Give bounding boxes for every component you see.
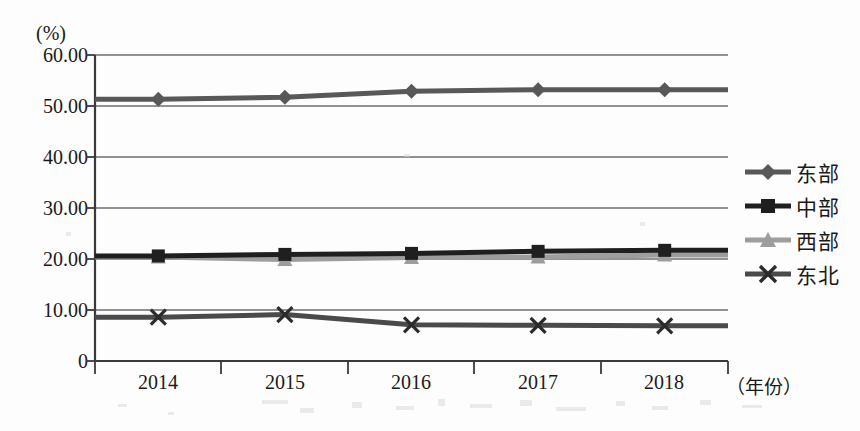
plot-area	[0, 0, 860, 431]
legend-item-west[interactable]: 西部	[744, 223, 860, 257]
legend-item-northeast[interactable]: 东北	[744, 257, 860, 291]
legend-item-central[interactable]: 中部	[744, 189, 860, 223]
x-tick-label-2017: 2017	[478, 371, 598, 394]
chart-legend: 东部 中部 西部	[744, 155, 860, 291]
x-tick-label-2018: 2018	[604, 371, 724, 394]
x-tick-label-2015: 2015	[225, 371, 345, 394]
legend-label-central: 中部	[792, 191, 839, 221]
x-tick-label-2016: 2016	[351, 371, 471, 394]
legend-label-northeast: 东北	[792, 259, 839, 289]
square-marker-icon	[744, 195, 792, 217]
y-axis-ticks	[86, 55, 95, 361]
x-axis-title: （年份）	[726, 372, 802, 399]
series-东部	[95, 82, 728, 107]
legend-label-east: 东部	[792, 157, 839, 187]
x-tick-label-2014: 2014	[98, 371, 218, 394]
chart-container: (%) 60.00 50.00 40.00 30.00 20.00 10.00 …	[0, 0, 860, 431]
legend-label-west: 西部	[792, 225, 839, 255]
triangle-marker-icon	[744, 229, 792, 251]
diamond-marker-icon	[744, 161, 792, 183]
legend-item-east[interactable]: 东部	[744, 155, 860, 189]
cross-x-marker-icon	[744, 263, 792, 285]
series-东北	[95, 307, 728, 333]
